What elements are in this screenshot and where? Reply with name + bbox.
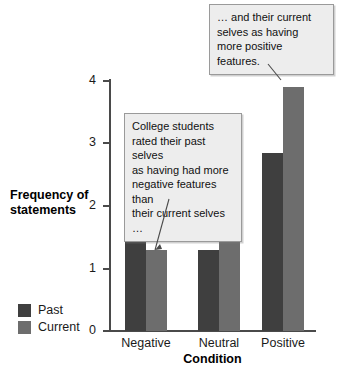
annotation-line: as having had more [132,163,234,178]
y-tick-label-2: 2 [66,199,96,212]
bar-negative-current [146,250,167,331]
annotation-line: their current selves … [132,206,234,235]
legend-label-past: Past [38,304,63,317]
legend-item-current: Current [18,319,80,336]
y-tick-label-4: 4 [66,74,96,87]
bar-positive-current [283,87,304,331]
annotation-line: College students [132,119,234,134]
y-tick-label-1: 1 [66,262,96,275]
annotation-line: more positive features. [217,39,326,68]
legend-item-past: Past [18,302,80,319]
annotation-callout-positive: … and their current selves as having mor… [209,4,334,75]
annotation-callout-negative: College students rated their past selves… [124,113,242,242]
y-tick-2 [103,205,110,207]
y-tick-0 [103,330,110,332]
annotation-line: negative features than [132,177,234,206]
annotation-line: rated their past selves [132,134,234,163]
x-axis-title: Condition [109,352,316,366]
x-tick-label-positive: Positive [238,336,328,350]
bar-chart-figure: Frequency of statements 4 3 2 1 0 Negati… [0,0,338,385]
legend-label-current: Current [38,321,80,334]
legend: Past Current [18,302,80,336]
bar-positive-past [262,153,283,331]
y-tick-4 [103,80,110,82]
y-tick-label-3: 3 [66,136,96,149]
annotation-line: … and their current [217,10,326,25]
annotation-line: selves as having [217,25,326,40]
bar-neutral-current [219,234,240,331]
bar-neutral-past [198,250,219,331]
legend-swatch-current-icon [18,321,31,334]
y-tick-1 [103,268,110,270]
legend-swatch-past-icon [18,304,31,317]
y-tick-3 [103,142,110,144]
